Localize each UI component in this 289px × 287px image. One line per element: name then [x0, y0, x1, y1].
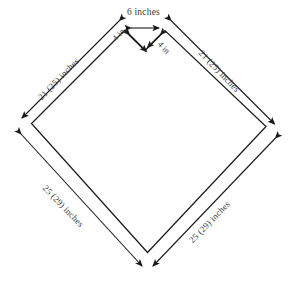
diagram-canvas: 6 inches 4 in 4 in 21 (25) inches 21 (25…: [0, 0, 289, 287]
notched-diamond-drawing: [0, 0, 289, 287]
dimension-label-top-notch-width: 6 inches: [127, 7, 160, 17]
